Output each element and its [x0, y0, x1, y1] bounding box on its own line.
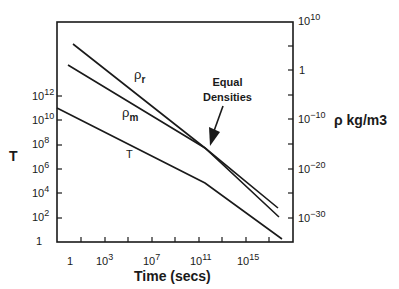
x-axis-title: Time (secs) [134, 268, 211, 284]
chart-canvas [0, 0, 399, 289]
y-left-tick-label: 106 [32, 164, 49, 175]
y-left-tick-label: 108 [32, 139, 49, 150]
plot-frame [57, 22, 293, 242]
y-left-tick-label: 1010 [32, 115, 54, 126]
y-left-tick-label: 104 [32, 188, 49, 199]
series-rho-r-line [73, 44, 278, 208]
series-t-line [57, 108, 282, 239]
y-right-tick-label: 10−30 [298, 213, 326, 224]
x-tick-label: 103 [96, 256, 113, 267]
annotation-arrow-shaft [214, 106, 223, 131]
y-right-axis-title: ρ kg/m3 [334, 112, 387, 128]
x-tick-label: 1 [67, 256, 73, 267]
series-label-rho-m: ρm [122, 105, 138, 123]
y-left-tick-label: 1 [36, 236, 42, 247]
series-label-rho-r: ρr [134, 67, 145, 85]
y-right-tick-label: 10−10 [298, 114, 326, 125]
annotation-arrow-head-icon [209, 127, 220, 146]
series-label-t: T [126, 148, 133, 160]
y-right-tick-label: 10−20 [298, 164, 326, 175]
y-right-tick-label: 1010 [298, 16, 320, 27]
y-left-axis-title: T [9, 148, 18, 164]
x-tick-label: 1011 [190, 256, 212, 267]
y-right-tick-label: 1 [299, 65, 305, 76]
x-tick-label: 1015 [237, 256, 259, 267]
y-left-tick-label: 1012 [32, 91, 54, 102]
x-tick-label: 107 [143, 256, 160, 267]
y-left-tick-label: 102 [32, 212, 49, 223]
annotation-equal-densities: EqualDensities [203, 75, 252, 105]
